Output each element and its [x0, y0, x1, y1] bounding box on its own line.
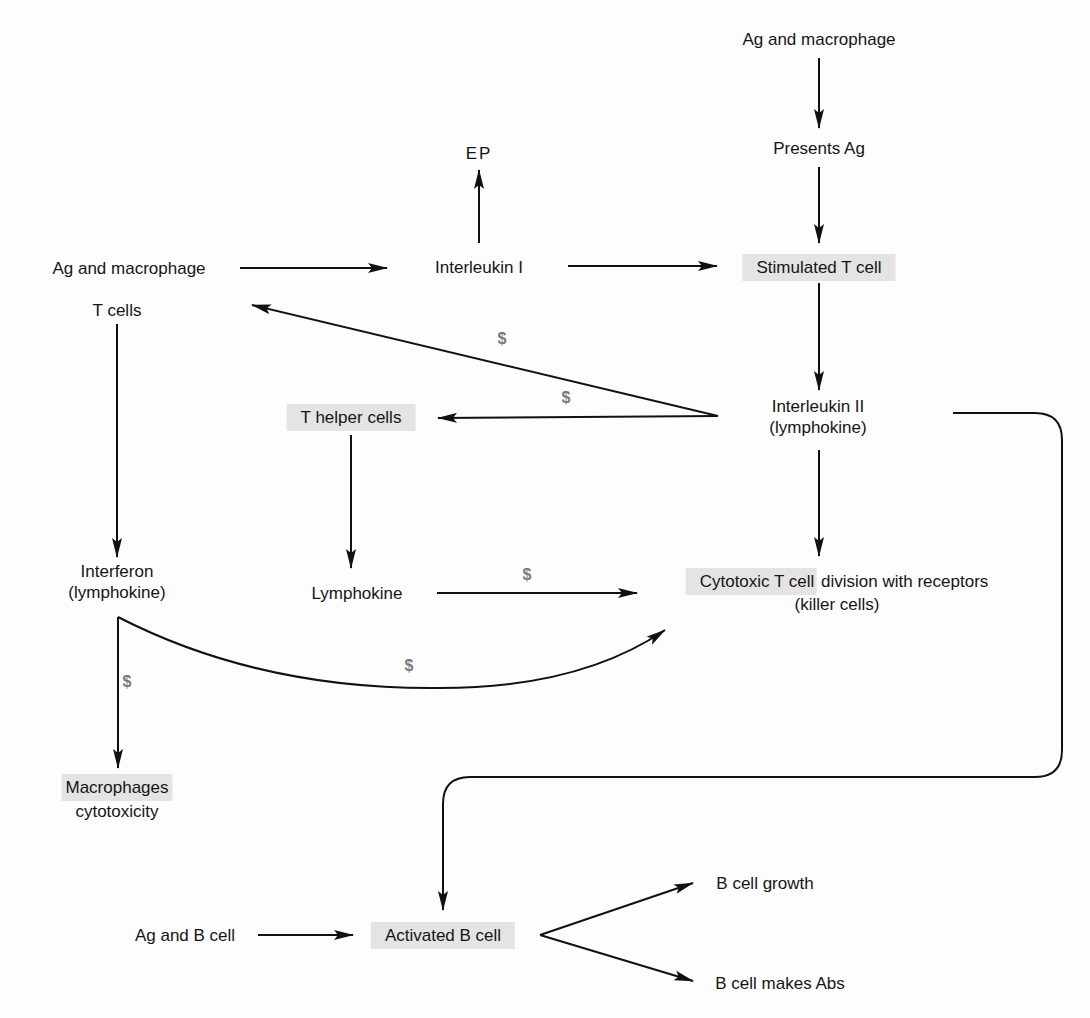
- node-cytotoxic-t-cell: Cytotoxic T cell division with receptors…: [686, 571, 989, 615]
- dollar-marker-il2-tcells: $: [498, 330, 507, 348]
- node-sublabel: (lymphokine): [68, 582, 165, 603]
- node-interferon: Interferon (lymphokine): [68, 561, 165, 603]
- immune-response-diagram: Ag and macrophage Presents Ag Stimulated…: [0, 0, 1090, 1018]
- node-label-highlighted: Cytotoxic T cell: [686, 568, 817, 595]
- node-sublabel: cytotoxicity: [61, 801, 172, 822]
- node-label-highlighted: Stimulated T cell: [742, 254, 895, 281]
- arrow-interferon-to-cytotoxic: [118, 617, 665, 688]
- arrow-activated-to-abs: [540, 935, 693, 981]
- node-ag-macrophage-top: Ag and macrophage: [742, 29, 895, 50]
- node-ep: EP: [466, 143, 493, 164]
- node-sublabel: (lymphokine): [769, 417, 866, 438]
- node-t-helper-cells: T helper cells: [287, 407, 416, 428]
- dollar-marker-il2-thelper: $: [562, 389, 571, 407]
- node-label: EP: [466, 144, 493, 163]
- dollar-marker-interferon-macrophages: $: [123, 673, 132, 691]
- node-presents-ag: Presents Ag: [773, 138, 865, 159]
- node-interleukin-1: Interleukin I: [435, 257, 523, 278]
- arrow-il2-to-thelper: [438, 416, 718, 418]
- arrow-il2-to-tcells: [252, 305, 718, 416]
- node-activated-b-cell: Activated B cell: [371, 925, 515, 946]
- node-label: Ag and macrophage: [742, 30, 895, 49]
- node-sublabel: (killer cells): [686, 594, 989, 615]
- connector-arrows: [0, 0, 1090, 1018]
- node-interleukin-2: Interleukin II (lymphokine): [769, 396, 866, 438]
- node-label: B cell makes Abs: [715, 974, 844, 993]
- dollar-marker-lymphokine-cytotoxic: $: [523, 566, 532, 584]
- node-label: Presents Ag: [773, 139, 865, 158]
- node-label-highlighted: Activated B cell: [371, 922, 515, 949]
- node-label: Interleukin II: [769, 396, 866, 417]
- arrow-activated-to-growth: [540, 883, 693, 935]
- node-ag-b-cell: Ag and B cell: [135, 925, 235, 946]
- node-label: Interleukin I: [435, 258, 523, 277]
- node-label-highlighted: Macrophages: [61, 774, 172, 801]
- node-label: Ag and macrophage: [52, 259, 205, 278]
- node-macrophages-cytotoxicity: Macrophages cytotoxicity: [61, 777, 172, 822]
- dollar-marker-interferon-cytotoxic: $: [405, 657, 414, 675]
- node-t-cells: T cells: [93, 300, 142, 321]
- node-label: Interferon: [68, 561, 165, 582]
- node-ag-macrophage-left: Ag and macrophage: [52, 258, 205, 279]
- node-label: division with receptors: [816, 572, 988, 591]
- node-lymphokine: Lymphokine: [311, 583, 402, 604]
- node-label: Ag and B cell: [135, 926, 235, 945]
- node-stimulated-t-cell: Stimulated T cell: [742, 257, 895, 278]
- node-label: B cell growth: [716, 874, 813, 893]
- node-b-cell-growth: B cell growth: [716, 873, 813, 894]
- node-b-cell-makes-abs: B cell makes Abs: [715, 973, 844, 994]
- arrow-il2-to-activated-b: [443, 413, 1062, 910]
- node-label: T cells: [93, 301, 142, 320]
- node-label-highlighted: T helper cells: [287, 404, 416, 431]
- node-label: Lymphokine: [311, 584, 402, 603]
